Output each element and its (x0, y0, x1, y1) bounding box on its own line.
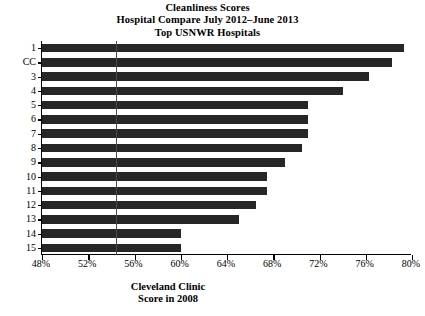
bar-row (42, 158, 412, 167)
y-tick (38, 248, 43, 249)
bar-row (42, 129, 412, 138)
chart-subtitle: Hospital Compare July 2012–June 2013 (0, 14, 415, 26)
bar-cc (42, 58, 392, 67)
y-tick (38, 148, 43, 149)
caption-line-1: Cleveland Clinic (48, 281, 288, 293)
y-tick-label-11: 11 (2, 186, 36, 196)
bar-14 (42, 229, 181, 238)
bar-6 (42, 115, 308, 124)
y-tick-label-6: 6 (2, 114, 36, 124)
y-tick (38, 177, 43, 178)
y-tick-label-10: 10 (2, 172, 36, 182)
x-tick-label-72pct: 72% (296, 259, 342, 269)
y-tick-label-9: 9 (2, 157, 36, 167)
y-tick (38, 134, 43, 135)
y-tick-label-15: 15 (2, 243, 36, 253)
chart-title: Cleanliness Scores (0, 2, 415, 14)
x-tick-label-68pct: 68% (249, 259, 295, 269)
y-tick (38, 105, 43, 106)
y-tick (38, 162, 43, 163)
chart-title-block: Cleanliness Scores Hospital Compare July… (0, 2, 415, 39)
y-tick (38, 48, 43, 49)
bar-row (42, 229, 412, 238)
y-tick-label-5: 5 (2, 100, 36, 110)
bar-row (42, 244, 412, 253)
y-tick (38, 91, 43, 92)
bar-row (42, 144, 412, 153)
y-tick (38, 191, 43, 192)
y-tick-label-cc: CC (2, 57, 36, 67)
plot-area (41, 41, 411, 255)
bar-10 (42, 172, 267, 181)
x-tick-label-52pct: 52% (64, 259, 110, 269)
y-tick-label-4: 4 (2, 86, 36, 96)
bar-row (42, 72, 412, 81)
y-tick-label-14: 14 (2, 229, 36, 239)
bar-4 (42, 87, 343, 96)
bar-row (42, 101, 412, 110)
x-tick-label-48pct: 48% (18, 259, 64, 269)
bar-7 (42, 129, 308, 138)
bar-row (42, 201, 412, 210)
y-tick-label-7: 7 (2, 129, 36, 139)
bar-row (42, 87, 412, 96)
bar-row (42, 172, 412, 181)
y-tick (38, 77, 43, 78)
caption-line-2: Score in 2008 (48, 293, 288, 305)
bar-row (42, 58, 412, 67)
bar-8 (42, 144, 302, 153)
x-tick-label-64pct: 64% (203, 259, 249, 269)
y-tick-label-13: 13 (2, 214, 36, 224)
x-tick-label-60pct: 60% (157, 259, 203, 269)
y-tick-label-3: 3 (2, 72, 36, 82)
bar-11 (42, 187, 267, 196)
x-tick-label-76pct: 76% (342, 259, 388, 269)
bar-9 (42, 158, 285, 167)
bar-5 (42, 101, 308, 110)
bar-3 (42, 72, 369, 81)
bar-row (42, 215, 412, 224)
y-tick-label-8: 8 (2, 143, 36, 153)
bar-15 (42, 244, 181, 253)
bar-1 (42, 44, 404, 53)
y-tick-label-12: 12 (2, 200, 36, 210)
bar-row (42, 115, 412, 124)
cleveland-clinic-reference-line (116, 41, 117, 255)
reference-line-caption: Cleveland Clinic Score in 2008 (48, 281, 288, 306)
bar-row (42, 44, 412, 53)
x-tick-label-80pct: 80% (388, 259, 425, 269)
y-tick (38, 205, 43, 206)
bar-13 (42, 215, 239, 224)
y-tick (38, 119, 43, 120)
y-tick (38, 234, 43, 235)
bar-12 (42, 201, 256, 210)
y-tick (38, 219, 43, 220)
bar-row (42, 187, 412, 196)
chart-subtitle-2: Top USNWR Hospitals (0, 27, 415, 39)
y-tick (38, 62, 43, 63)
y-tick-label-1: 1 (2, 43, 36, 53)
x-tick-label-56pct: 56% (111, 259, 157, 269)
